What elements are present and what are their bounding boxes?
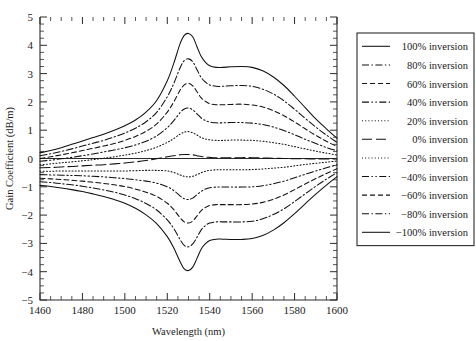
y-axis-title: Gain Coefficient (dB/m) <box>4 106 16 210</box>
x-tick-label: 1600 <box>326 304 349 316</box>
chart-canvas: 14601480150015201540156015801600 −5−4−3−… <box>0 0 476 341</box>
legend: 100% inversion80% inversion60% inversion… <box>357 33 474 246</box>
legend-label: 80% inversion <box>407 60 469 71</box>
y-tick-label: 4 <box>28 39 34 51</box>
y-tick-label: 0 <box>28 153 34 165</box>
legend-label: −100% inversion <box>396 227 469 238</box>
y-tick-label: −3 <box>21 237 33 249</box>
legend-label: 40% inversion <box>407 97 469 108</box>
legend-label: −40% inversion <box>401 172 469 183</box>
x-axis-title: Wavelength (nm) <box>152 326 225 338</box>
y-tick-label: −4 <box>21 266 33 278</box>
legend-label: −20% inversion <box>401 153 469 164</box>
x-tick-label: 1560 <box>241 304 264 316</box>
y-tick-label: 2 <box>28 96 34 108</box>
legend-label: 20% inversion <box>407 116 469 127</box>
y-tick-label: −2 <box>21 209 33 221</box>
x-tick-label: 1500 <box>114 304 137 316</box>
legend-label: 60% inversion <box>407 79 469 90</box>
legend-label: −80% inversion <box>401 209 469 220</box>
y-tick-label: 5 <box>28 11 34 23</box>
x-tick-label: 1580 <box>284 304 307 316</box>
x-tick-label: 1480 <box>71 304 94 316</box>
y-tick-label: 1 <box>28 124 34 136</box>
gain-coefficient-chart: 14601480150015201540156015801600 −5−4−3−… <box>0 0 476 341</box>
x-tick-label: 1540 <box>199 304 222 316</box>
legend-label: 0% inversion <box>412 134 468 145</box>
y-tick-label: −1 <box>21 181 33 193</box>
y-tick-label: −5 <box>21 294 33 306</box>
legend-label: 100% inversion <box>402 41 469 52</box>
legend-label: −60% inversion <box>401 190 469 201</box>
x-tick-label: 1520 <box>156 304 179 316</box>
y-tick-label: 3 <box>28 68 34 80</box>
